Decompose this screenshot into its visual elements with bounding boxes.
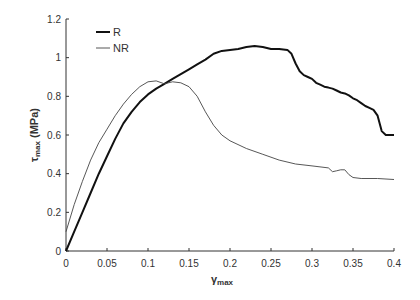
legend-label: NR bbox=[113, 42, 129, 54]
y-tick-label: 0 bbox=[55, 246, 61, 257]
y-tick-label: 1.2 bbox=[47, 14, 61, 25]
legend-label: R bbox=[113, 26, 121, 38]
x-tick-label: 0.05 bbox=[97, 258, 117, 269]
x-axis-label: γmax bbox=[211, 273, 234, 287]
y-tick-label: 0.8 bbox=[47, 91, 61, 102]
legend: RNR bbox=[96, 26, 129, 54]
y-axis-label: τmax (MPa) bbox=[28, 108, 42, 162]
data-series bbox=[66, 46, 394, 251]
x-tick-label: 0.2 bbox=[223, 258, 237, 269]
y-tick-label: 1 bbox=[55, 52, 61, 63]
x-tick-label: 0.3 bbox=[305, 258, 319, 269]
y-tick-label: 0.4 bbox=[47, 168, 61, 179]
x-tick-label: 0.35 bbox=[343, 258, 363, 269]
y-tick-label: 0.6 bbox=[47, 130, 61, 141]
x-tick-label: 0.15 bbox=[179, 258, 199, 269]
y-tick-label: 0.2 bbox=[47, 207, 61, 218]
series-nr bbox=[66, 81, 394, 232]
x-tick-label: 0.4 bbox=[387, 258, 401, 269]
x-tick-label: 0.25 bbox=[261, 258, 281, 269]
x-tick-label: 0.1 bbox=[141, 258, 155, 269]
axis-ticks: 00.050.10.150.20.250.30.350.400.20.40.60… bbox=[47, 14, 401, 270]
series-r bbox=[66, 46, 394, 251]
x-tick-label: 0 bbox=[63, 258, 69, 269]
line-chart: 00.050.10.150.20.250.30.350.400.20.40.60… bbox=[0, 0, 420, 300]
